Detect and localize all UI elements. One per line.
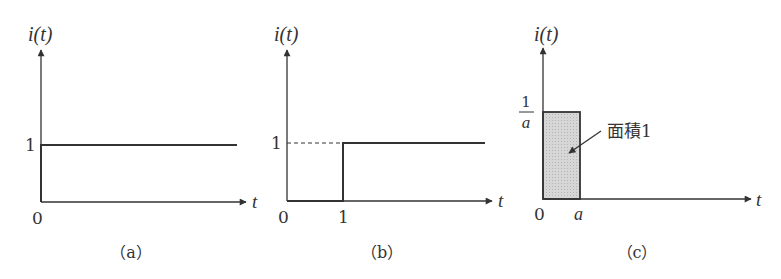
signal-line: [41, 145, 237, 202]
origin-label: 0: [32, 208, 43, 228]
x-axis-label: t: [756, 189, 762, 210]
signal-line: [287, 143, 485, 201]
origin-label: 0: [534, 204, 545, 224]
origin-label: 0: [278, 207, 289, 227]
caption: （c）: [617, 243, 658, 262]
panel-a: i(t) t 0 1 （a）: [25, 23, 258, 262]
x-tick-label: a: [574, 204, 583, 224]
caption: （a）: [110, 243, 152, 262]
y-tick-label: 1: [271, 133, 282, 153]
panel-b: i(t) t 0 1 1 （b）: [271, 23, 504, 262]
y-tick-numerator: 1: [521, 93, 531, 111]
x-axis-label: t: [252, 191, 258, 212]
panel-c: i(t) t 0 1 a a 面積1 （c）: [519, 23, 762, 262]
x-tick-label: 1: [338, 207, 349, 227]
y-tick-denominator: a: [522, 113, 531, 132]
figure-canvas: i(t) t 0 1 （a） i(t) t 0 1 1 （b） i(t) t 0…: [0, 0, 781, 279]
y-axis-label: i(t): [534, 23, 559, 46]
area-annotation: 面積1: [607, 121, 652, 141]
y-tick-label: 1: [25, 135, 36, 155]
caption: （b）: [361, 243, 403, 262]
y-axis-label: i(t): [274, 23, 299, 46]
pulse-area: [543, 112, 580, 199]
y-axis-label: i(t): [28, 23, 53, 46]
x-axis-label: t: [498, 190, 504, 211]
